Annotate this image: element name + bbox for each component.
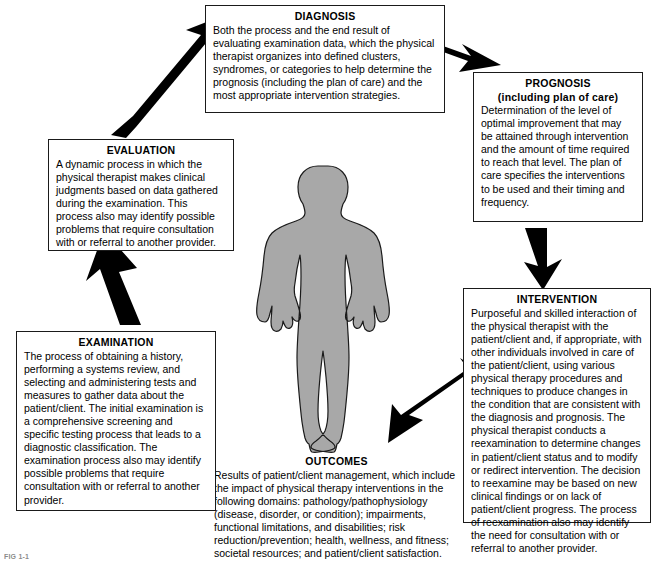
node-intervention-title: INTERVENTION xyxy=(471,293,643,306)
node-intervention-body: Purposeful and skilled interaction of th… xyxy=(471,307,643,556)
node-diagnosis-title: DIAGNOSIS xyxy=(213,10,437,23)
node-outcomes-body: Results of patient/client management, wh… xyxy=(214,469,459,561)
node-diagnosis-body: Both the process and the end result of e… xyxy=(213,24,437,103)
diagram-canvas: DIAGNOSIS Both the process and the end r… xyxy=(0,0,658,562)
node-examination-title: EXAMINATION xyxy=(24,336,208,349)
arrow-prognosis-to-intervention xyxy=(524,228,562,290)
node-intervention: INTERVENTION Purposeful and skilled inte… xyxy=(463,288,651,523)
human-body-silhouette xyxy=(257,166,390,452)
arrow-intervention-to-outcomes xyxy=(388,358,471,443)
node-prognosis-subtitle: (including plan of care) xyxy=(481,91,635,104)
node-prognosis-title: PROGNOSIS xyxy=(481,77,635,90)
node-evaluation-body: A dynamic process in which the physical … xyxy=(56,158,226,250)
node-evaluation-title: EVALUATION xyxy=(56,144,226,157)
node-outcomes: OUTCOMES Results of patient/client manag… xyxy=(214,455,459,560)
node-prognosis: PROGNOSIS (including plan of care) Deter… xyxy=(473,72,643,222)
node-diagnosis: DIAGNOSIS Both the process and the end r… xyxy=(205,5,445,113)
node-examination: EXAMINATION The process of obtaining a h… xyxy=(16,331,216,511)
node-outcomes-title: OUTCOMES xyxy=(214,455,459,468)
figure-caption: FIG 1-1 xyxy=(4,553,29,561)
node-examination-body: The process of obtaining a history, perf… xyxy=(24,350,208,507)
node-prognosis-body: Determination of the level of optimal im… xyxy=(481,104,635,209)
node-evaluation: EVALUATION A dynamic process in which th… xyxy=(48,139,234,251)
